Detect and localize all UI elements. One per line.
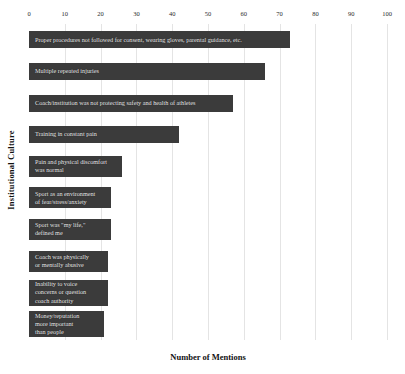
x-tick-label-50: 50 [205,10,212,17]
bar[interactable]: Coach/institution was not protecting saf… [29,95,233,112]
bar[interactable]: Money/reputation more important than peo… [29,311,104,337]
bar[interactable]: Proper procedures not followed for conse… [29,31,290,48]
y-axis-title: Institutional Culture [2,0,20,340]
bar-label: Pain and physical discomfort was normal [29,158,111,174]
bar[interactable]: Multiple repeated injuries [29,63,265,80]
x-tick-label-40: 40 [169,10,176,17]
bar-row: Money/reputation more important than peo… [29,311,387,337]
x-tick-label-30: 30 [133,10,140,17]
bar-label: Sport as an environment of fear/stress/a… [29,190,99,206]
bar[interactable]: Pain and physical discomfort was normal [29,156,122,177]
bar-row: Coach was physically or mentally abusive [29,251,387,272]
bar[interactable]: Sport as an environment of fear/stress/a… [29,187,111,208]
bar[interactable]: Coach was physically or mentally abusive [29,251,108,272]
x-tick-label-20: 20 [97,10,104,17]
x-tick-label-100: 100 [382,10,392,17]
gridline-100 [387,24,388,340]
bar-row: Multiple repeated injuries [29,63,387,80]
bar-label: Proper procedures not followed for conse… [29,36,246,44]
x-tick-label-60: 60 [241,10,248,17]
bar-row: Sport was "my life," defined me [29,219,387,240]
x-tick-label-10: 10 [62,10,69,17]
x-tick-label-0: 0 [27,10,30,17]
bar[interactable]: Training in constant pain [29,126,179,143]
horizontal-bar-chart: Institutional Culture 010203040506070809… [0,0,405,374]
bar-label: Inability to voice concerns or question … [29,280,90,305]
x-axis-ticks: 0102030405060708090100 [29,10,387,22]
bar-row: Pain and physical discomfort was normal [29,156,387,177]
bar-row: Proper procedures not followed for conse… [29,31,387,48]
bar-label: Multiple repeated injuries [29,67,103,75]
plot-area: Proper procedures not followed for conse… [29,24,387,340]
bar[interactable]: Sport was "my life," defined me [29,219,111,240]
x-axis-title: Number of Mentions [29,352,387,362]
bar-row: Inability to voice concerns or question … [29,280,387,306]
x-tick-label-80: 80 [312,10,319,17]
bar-label: Money/reputation more important than peo… [29,312,83,337]
bar-row: Training in constant pain [29,126,387,143]
x-tick-label-90: 90 [348,10,355,17]
bar-label: Sport was "my life," defined me [29,221,89,237]
bar-row: Sport as an environment of fear/stress/a… [29,187,387,208]
bar-row: Coach/institution was not protecting saf… [29,95,387,112]
y-axis-title-text: Institutional Culture [6,130,16,209]
x-tick-label-70: 70 [276,10,283,17]
bar-label: Coach/institution was not protecting saf… [29,99,200,107]
bar[interactable]: Inability to voice concerns or question … [29,280,108,306]
bar-label: Training in constant pain [29,130,101,138]
bar-label: Coach was physically or mentally abusive [29,253,93,269]
